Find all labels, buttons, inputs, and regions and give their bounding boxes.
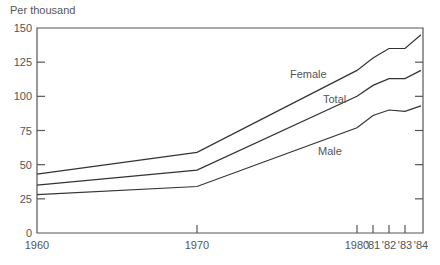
series-label-total: Total <box>323 93 346 105</box>
x-tick-label: '81 <box>366 239 380 251</box>
y-tick-label: 75 <box>20 125 32 137</box>
series-lines <box>37 35 421 195</box>
y-tick-label: 50 <box>20 159 32 171</box>
axes: 0255075100125150196019701980'81'82'83'84 <box>14 22 429 251</box>
line-chart: 0255075100125150196019701980'81'82'83'84… <box>0 0 440 265</box>
y-tick-label: 0 <box>26 227 32 239</box>
y-tick-label: 150 <box>14 22 32 34</box>
x-tick-label: 1970 <box>185 239 209 251</box>
series-labels: Female Total Male <box>290 68 346 157</box>
x-tick-label: '82 <box>382 239 396 251</box>
x-tick-label: '83 <box>398 239 412 251</box>
x-tick-label: '84 <box>414 239 428 251</box>
series-label-male: Male <box>318 145 342 157</box>
series-line-total <box>37 70 421 185</box>
plot-frame <box>37 28 423 233</box>
y-tick-label: 25 <box>20 193 32 205</box>
series-label-female: Female <box>290 68 327 80</box>
y-tick-label: 125 <box>14 56 32 68</box>
series-line-male <box>37 106 421 195</box>
x-tick-label: 1960 <box>25 239 49 251</box>
series-line-female <box>37 35 421 174</box>
y-tick-label: 100 <box>14 90 32 102</box>
